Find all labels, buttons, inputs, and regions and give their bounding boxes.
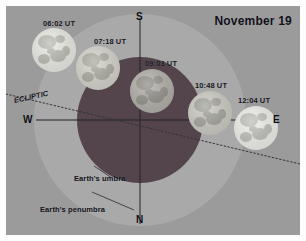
moon-disc-0718: [76, 46, 120, 90]
umbra-label: Earth's umbra: [74, 174, 125, 183]
sky-background: November 19 S N W E ECLIPTIC 06:02 UT 07…: [6, 6, 300, 235]
moon-disc-1048: [188, 91, 232, 135]
figure-title: November 19: [214, 14, 292, 28]
moon-time-label-1048: 10:48 UT: [195, 81, 227, 90]
moon-time-label-0903: 09:03 UT: [145, 59, 177, 68]
cardinal-south-label: S: [136, 11, 143, 22]
moon-time-label-0718: 07:18 UT: [94, 37, 126, 46]
eclipse-diagram-svg: [6, 6, 300, 235]
moon-time-label-1204: 12:04 UT: [238, 96, 270, 105]
moon-disc-1204: [234, 106, 278, 150]
cardinal-west-label: W: [23, 114, 33, 125]
cardinal-north-label: N: [136, 214, 143, 225]
moon-time-label-0602: 06:02 UT: [43, 19, 75, 28]
moon-disc-0903: [130, 69, 174, 113]
penumbra-label: Earth's penumbra: [40, 205, 105, 214]
figure-frame: November 19 S N W E ECLIPTIC 06:02 UT 07…: [0, 0, 306, 241]
moon-disc-0602: [32, 28, 76, 72]
cardinal-east-label: E: [273, 114, 280, 125]
